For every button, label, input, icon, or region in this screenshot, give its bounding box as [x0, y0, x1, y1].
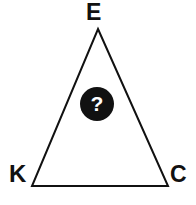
question-mark-badge: ?: [80, 87, 114, 121]
triangle-figure: E K C ?: [0, 0, 196, 205]
question-mark-icon: ?: [91, 93, 104, 114]
vertex-label-apex: E: [86, 1, 101, 24]
vertex-label-bottom-left: K: [9, 162, 26, 186]
vertex-label-bottom-right: C: [170, 163, 187, 186]
